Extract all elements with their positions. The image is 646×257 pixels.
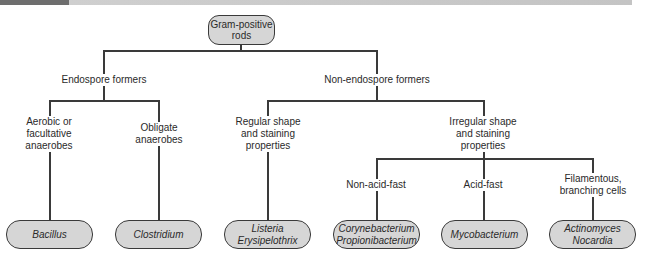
header-dark-block: [0, 0, 69, 5]
root-line-2: rods: [232, 30, 251, 41]
acid-fast-label: Acid-fast: [460, 179, 506, 191]
non-acid-fast-label: Non-acid-fast: [345, 179, 407, 191]
aerobic-label: Aerobic or facultative anaerobes: [18, 116, 80, 152]
leaf-listeria-erysipelothrix: Listeria Erysipelothrix: [224, 220, 311, 249]
connector: [267, 100, 484, 102]
connector: [158, 100, 160, 221]
irregular-shape-label: Irregular shape and staining properties: [443, 116, 523, 152]
leaf-clostridium: Clostridium: [115, 220, 202, 249]
regular-shape-label: Regular shape and staining properties: [230, 116, 306, 152]
header-bar: [69, 0, 632, 5]
root-node: Gram-positive rods: [208, 15, 275, 45]
connector: [49, 100, 159, 102]
connector: [103, 50, 377, 52]
root-line-1: Gram-positive: [210, 19, 272, 30]
leaf-actinomyces-nocardia: Actinomyces Nocardia: [549, 220, 636, 249]
non-endospore-formers-label: Non-endospore formers: [322, 74, 432, 86]
filamentous-label: Filamentous, branching cells: [558, 173, 628, 197]
connector: [376, 158, 593, 160]
leaf-bacillus: Bacillus: [6, 220, 93, 249]
obligate-label: Obligate anaerobes: [128, 122, 190, 146]
leaf-corynebacterium-propionibacterium: Corynebacterium Propionibacterium: [333, 220, 420, 249]
endospore-formers-label: Endospore formers: [60, 74, 148, 86]
leaf-mycobacterium: Mycobacterium: [441, 220, 528, 249]
